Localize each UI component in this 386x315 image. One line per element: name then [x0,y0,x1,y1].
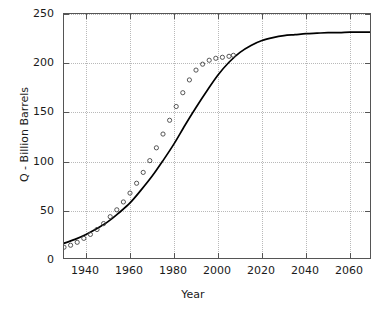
data-point-marker [168,118,172,122]
data-point-marker [148,159,152,163]
data-point-marker [82,236,86,240]
data-point-marker [201,62,205,66]
x-tick-label: 1960 [115,264,143,277]
y-tick-label: 200 [10,56,54,69]
x-tick-label: 1940 [71,264,99,277]
data-point-marker [187,78,191,82]
x-tick-label: 2000 [203,264,231,277]
data-point-marker [174,104,178,108]
y-axis-title: Q - Billion Barrels [18,65,31,205]
data-point-marker [207,58,211,62]
data-point-marker [115,208,119,212]
y-tick-label: 150 [10,105,54,118]
marker-series-1 [64,53,235,249]
data-point-marker [75,240,79,244]
line-series-0 [64,32,370,243]
data-point-marker [69,243,73,247]
data-point-marker [135,181,139,185]
x-tick-label: 2020 [247,264,275,277]
data-point-marker [154,146,158,150]
data-point-marker [161,132,165,136]
y-tick-label: 100 [10,154,54,167]
x-axis-title: Year [0,288,386,301]
data-point-marker [108,215,112,219]
data-point-marker [194,68,198,72]
y-tick-label: 50 [10,203,54,216]
x-tick-label: 2040 [291,264,319,277]
data-point-marker [181,91,185,95]
x-tick-label: 1980 [159,264,187,277]
data-point-marker [64,245,66,249]
y-tick-label: 0 [10,253,54,266]
plot-inner [64,14,370,258]
plot-area [63,13,371,259]
x-tick-label: 2060 [335,264,363,277]
chart-figure: Q - Billion Barrels 19401960198020002020… [0,0,386,315]
data-point-marker [141,170,145,174]
data-point-marker [214,56,218,60]
data-point-marker [121,200,125,204]
data-series-layer [64,14,370,258]
y-tick-label: 250 [10,7,54,20]
data-point-marker [220,55,224,59]
data-point-marker [128,191,132,195]
data-point-marker [227,54,231,58]
